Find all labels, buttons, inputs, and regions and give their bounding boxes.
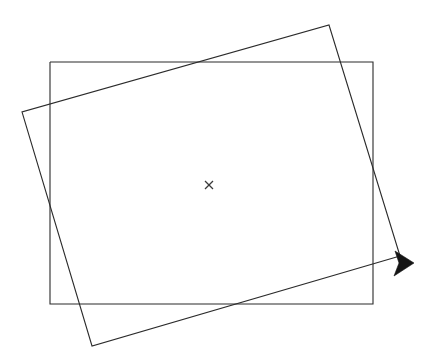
canvas-background: [0, 0, 434, 355]
rotated-rectangle-diagram: [0, 0, 434, 355]
figure-canvas: [0, 0, 434, 355]
